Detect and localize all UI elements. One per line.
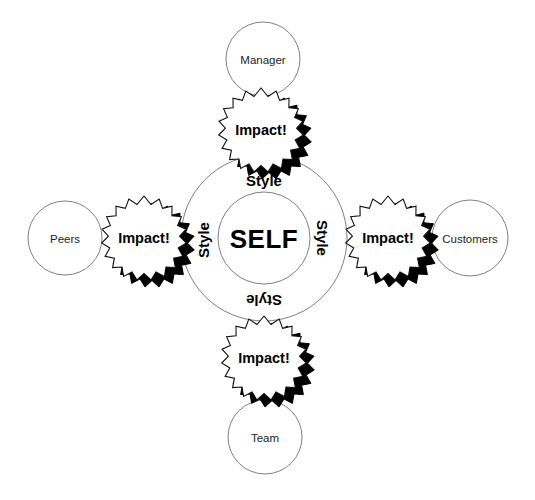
stakeholder-team[interactable]: Team <box>228 400 302 474</box>
impact-label-bottom: Impact! <box>238 350 290 366</box>
impact-burst-right[interactable]: Impact! <box>346 196 439 287</box>
impact-burst-top[interactable]: Impact! <box>219 88 312 179</box>
style-label-left: Style <box>195 222 212 258</box>
impact-label-left: Impact! <box>118 230 170 246</box>
peers-label: Peers <box>50 233 80 245</box>
impact-burst-bottom[interactable]: Impact! <box>222 316 315 407</box>
self-style-impact-diagram: SELF Style Style Style Style Manager Cus… <box>0 0 535 500</box>
manager-label: Manager <box>240 54 286 66</box>
stakeholder-peers[interactable]: Peers <box>28 201 102 275</box>
impact-label-top: Impact! <box>235 122 287 138</box>
customers-label: Customers <box>442 233 498 245</box>
team-label: Team <box>251 432 279 444</box>
impact-label-right: Impact! <box>362 230 414 246</box>
diagram-canvas: SELF Style Style Style Style Manager Cus… <box>0 0 535 500</box>
style-label-right: Style <box>314 220 331 256</box>
stakeholder-customers[interactable]: Customers <box>432 200 508 276</box>
style-label-bottom: Style <box>246 292 282 309</box>
stakeholder-manager[interactable]: Manager <box>226 22 300 96</box>
self-label: SELF <box>230 224 298 254</box>
impact-burst-left[interactable]: Impact! <box>102 196 195 287</box>
